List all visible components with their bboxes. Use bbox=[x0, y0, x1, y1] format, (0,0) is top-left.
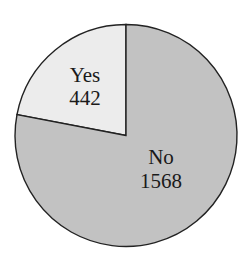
slice-label-no: No bbox=[148, 145, 174, 169]
slice-value-no: 1568 bbox=[140, 169, 182, 193]
slice-label-yes: Yes bbox=[70, 63, 101, 87]
pie-chart: Yes 442 No 1568 bbox=[0, 0, 245, 255]
slice-value-yes: 442 bbox=[69, 86, 101, 110]
